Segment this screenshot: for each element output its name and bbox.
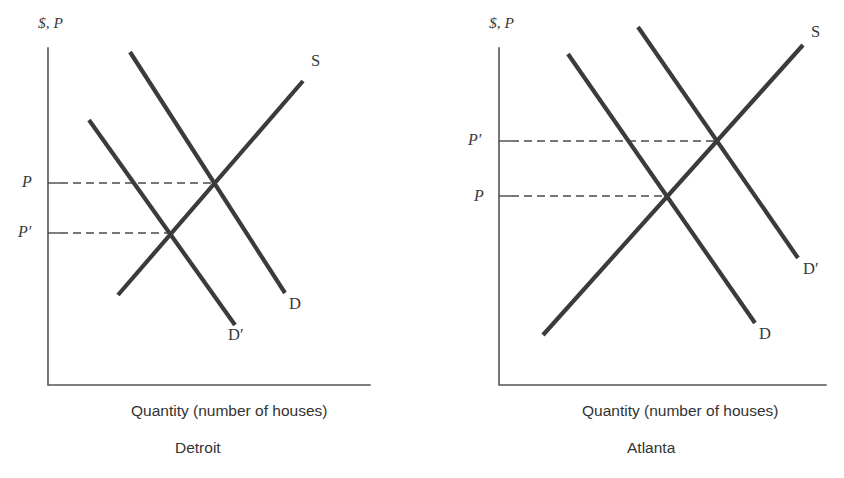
detroit-axes [48, 48, 370, 385]
detroit-demand-label: D [289, 296, 301, 313]
detroit-price-tick-p-prime: P′ [18, 224, 31, 240]
atlanta-demand-label: D [759, 326, 771, 343]
detroit-x-axis-title: Quantity (number of houses) [131, 403, 327, 419]
atlanta-supply-curve [543, 45, 803, 335]
atlanta-caption: Atlanta [627, 440, 675, 456]
atlanta-y-axis-title: $, P [489, 15, 514, 31]
atlanta-demand-new-label: D′ [803, 261, 819, 278]
atlanta-axes [499, 48, 826, 385]
panel-atlanta: $, P P′ P S D D′ Quantity (number of hou… [422, 0, 844, 478]
supply-demand-figure: $, P P P′ S D D′ Quantity (number of hou… [0, 0, 844, 478]
detroit-y-axis-title: $, P [38, 15, 63, 31]
detroit-price-tick-p: P [22, 174, 32, 190]
detroit-demand-new-curve [89, 120, 235, 325]
atlanta-supply-label: S [811, 24, 820, 41]
detroit-supply-curve [118, 81, 303, 295]
detroit-supply-label: S [311, 53, 320, 70]
atlanta-price-tick-p: P [474, 188, 484, 204]
detroit-demand-new-label: D′ [228, 327, 244, 344]
panel-detroit: $, P P P′ S D D′ Quantity (number of hou… [0, 0, 422, 478]
detroit-caption: Detroit [175, 440, 221, 456]
atlanta-demand-new-curve [638, 27, 798, 258]
atlanta-demand-curve [568, 54, 755, 323]
atlanta-x-axis-title: Quantity (number of houses) [582, 403, 778, 419]
atlanta-price-tick-p-prime: P′ [468, 132, 481, 148]
